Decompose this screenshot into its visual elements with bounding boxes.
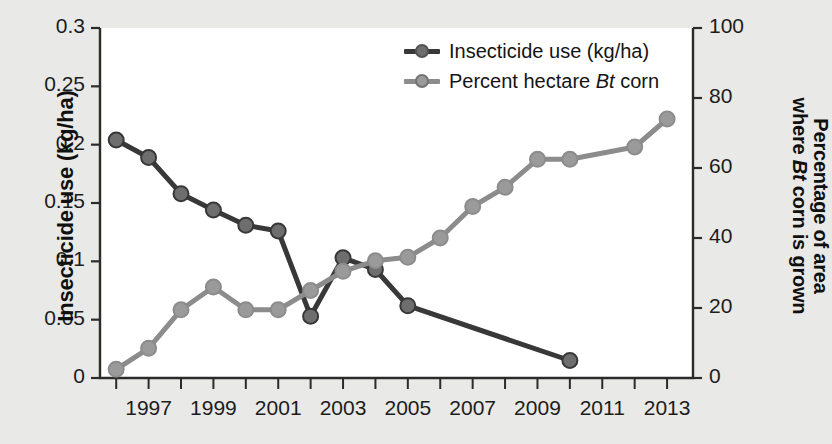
right-axis-tick-label: 40 bbox=[709, 224, 732, 248]
legend-marker-icon bbox=[404, 42, 440, 60]
chart-legend: Insecticide use (kg/ha)Percent hectare B… bbox=[404, 36, 659, 96]
left-axis-tick-label: 0 bbox=[0, 364, 85, 388]
legend-item-label: Percent hectare Bt corn bbox=[449, 70, 659, 93]
right-axis-tick-label: 20 bbox=[709, 294, 732, 318]
right-axis-title-line2: where Bt corn is grown bbox=[789, 56, 810, 356]
x-axis-tick-label: 1999 bbox=[190, 396, 237, 420]
x-axis-tick-label: 2007 bbox=[449, 396, 496, 420]
legend-item[interactable]: Insecticide use (kg/ha) bbox=[404, 36, 659, 66]
x-axis-tick-label: 2009 bbox=[514, 396, 561, 420]
right-axis-tick-label: 80 bbox=[709, 84, 732, 108]
left-axis-tick-label: 0.3 bbox=[0, 14, 85, 38]
right-axis-title-line1: Percentage of area bbox=[810, 118, 832, 293]
x-axis-tick-label: 2011 bbox=[580, 396, 625, 420]
right-axis-tick-label: 0 bbox=[709, 364, 721, 388]
legend-item-label: Insecticide use (kg/ha) bbox=[449, 40, 649, 63]
x-axis-tick-label: 2003 bbox=[320, 396, 367, 420]
legend-item[interactable]: Percent hectare Bt corn bbox=[404, 66, 659, 96]
right-axis-tick-label: 100 bbox=[709, 14, 744, 38]
x-axis-tick-label: 1997 bbox=[125, 396, 172, 420]
x-axis-tick-label: 2013 bbox=[644, 396, 691, 420]
x-axis-tick-label: 2001 bbox=[255, 396, 302, 420]
right-axis-title: Percentage of area where Bt corn is grow… bbox=[789, 56, 831, 356]
left-axis-title: Insecticide use (kg/ha) bbox=[53, 56, 79, 356]
x-axis-tick-label: 2005 bbox=[384, 396, 431, 420]
right-axis-tick-label: 60 bbox=[709, 154, 732, 178]
data-series bbox=[109, 112, 675, 377]
legend-marker-icon bbox=[404, 72, 440, 90]
